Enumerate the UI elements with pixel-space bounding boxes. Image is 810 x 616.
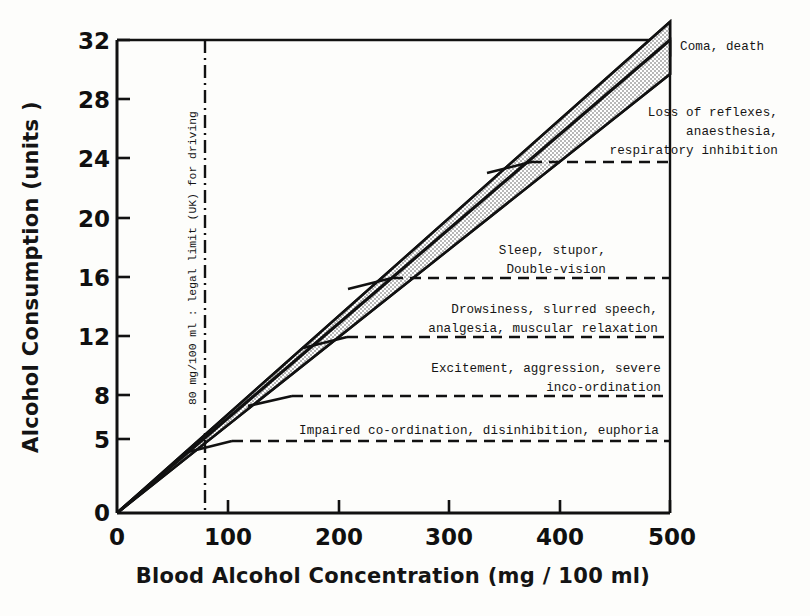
x-tick-label-400: 400 [536,524,584,550]
y-tick-label-20: 20 [78,206,110,232]
annotation-excite-line1: Excitement, aggression, severe [431,362,661,376]
alcohol-consumption-chart: 32 28 24 20 16 12 8 5 0 0 100 200 300 40… [0,0,810,616]
x-tick-label-100: 100 [204,524,252,550]
y-axis-title: Alcohol Consumption (units ) [19,101,43,453]
legal-limit-note: 80 mg/100 ml : legal limit (UK) for driv… [187,111,199,405]
annotation-loss-line3: respiratory inhibition [610,144,778,158]
annotation-loss-line2: anaesthesia, [686,125,778,139]
figure-container: 32 28 24 20 16 12 8 5 0 0 100 200 300 40… [0,0,810,616]
annotation-impaired-coordination: Impaired co-ordination, disinhibition, e… [299,424,659,438]
y-tick-label-32: 32 [78,28,110,54]
annotation-excite-line2: inco-ordination [546,381,661,395]
y-tick-label-8: 8 [94,383,110,409]
annotation-drowsy-line2: analgesia, muscular relaxation [428,322,658,336]
x-tick-label-300: 300 [425,524,473,550]
y-tick-label-24: 24 [78,146,110,172]
annotation-sleep-line2: Double-vision [506,263,606,277]
annotation-sleep-line1: Sleep, stupor, [499,244,606,258]
x-tick-label-0: 0 [109,524,125,550]
annotation-loss-line1: Loss of reflexes, [648,106,778,120]
y-tick-label-12: 12 [78,324,110,350]
x-tick-label-500: 500 [648,524,696,550]
annotation-coma-death: Coma, death [680,40,764,54]
y-tick-label-28: 28 [78,87,110,113]
x-tick-label-200: 200 [315,524,363,550]
y-tick-label-16: 16 [78,265,110,291]
y-tick-label-0: 0 [94,500,110,526]
y-tick-label-5: 5 [94,427,110,453]
annotation-drowsy-line1: Drowsiness, slurred speech, [451,303,658,317]
x-axis-title: Blood Alcohol Concentration (mg / 100 ml… [136,564,650,588]
